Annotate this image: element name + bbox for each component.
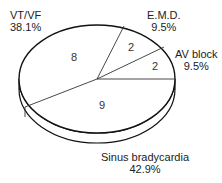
count-sinus: 9: [99, 99, 105, 111]
label-av-name: AV block: [175, 48, 218, 60]
count-vtvf: 8: [71, 51, 77, 63]
label-emd-pct: 9.5%: [147, 21, 181, 33]
count-emd: 2: [128, 41, 134, 53]
label-sinus-pct: 42.9%: [101, 163, 189, 175]
label-sinus: Sinus bradycardia 42.9%: [101, 151, 189, 175]
label-vtvf-pct: 38.1%: [10, 21, 41, 33]
label-vtvf-name: VT/VF: [10, 9, 41, 21]
label-sinus-name: Sinus bradycardia: [101, 151, 189, 163]
label-av-pct: 9.5%: [175, 60, 218, 72]
label-emd-name: E.M.D.: [147, 9, 181, 21]
label-emd: E.M.D. 9.5%: [147, 9, 181, 33]
count-av: 2: [152, 60, 158, 72]
label-av: AV block 9.5%: [175, 48, 218, 72]
label-vtvf: VT/VF 38.1%: [10, 9, 41, 33]
